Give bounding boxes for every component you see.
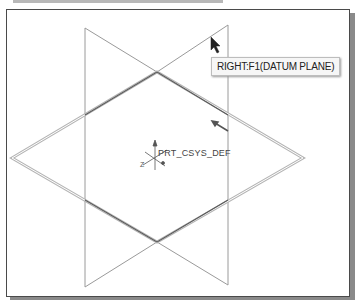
direction-arrow-icon [212,121,228,131]
csys-label: PRT_CSYS_DEF [158,148,231,158]
z-axis-label: Z [140,161,144,168]
datum-plane-tooltip: RIGHT:F1(DATUM PLANE) [211,57,340,76]
mouse-cursor-icon [211,37,220,53]
